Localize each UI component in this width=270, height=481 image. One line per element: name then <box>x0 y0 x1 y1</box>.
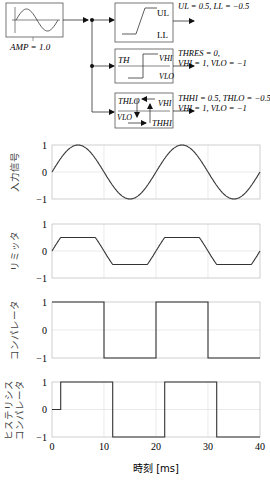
y-tick-label: −1 <box>36 194 47 205</box>
y-axis-label: リミッタ <box>9 231 20 271</box>
hysteresis-thlo-label: THLO <box>118 96 140 106</box>
comparator-vlo-label: VLO <box>159 72 174 81</box>
comparator-params-1: THRES = 0, <box>178 48 220 58</box>
y-tick-label: 0 <box>42 404 47 415</box>
hysteresis-thhi-label: THHI <box>152 118 173 128</box>
charts: 10−1入力信号10−1リミッタ10−1コンパレータ10−1010203040ヒ… <box>3 140 265 453</box>
y-tick-label: 1 <box>42 219 47 230</box>
x-tick-label: 30 <box>203 441 213 452</box>
y-tick-label: 0 <box>42 325 47 336</box>
y-tick-label: 0 <box>42 167 47 178</box>
limiter-ul-label: UL <box>157 8 169 18</box>
figure: AMP = 1.0 UL LL UL = 0.5, LL = −0.5 TH V… <box>0 0 270 481</box>
hysteresis-params-2: VHI = 1, VLO = −1 <box>178 103 247 113</box>
y-tick-label: −1 <box>36 432 47 443</box>
comparator-th-label: TH <box>118 55 130 65</box>
y-tick-label: 1 <box>42 377 47 388</box>
y-tick-label: 1 <box>42 140 47 151</box>
hysteresis-params-1: THHI = 0.5, THLO = −0.5 <box>178 93 270 103</box>
y-tick-label: 0 <box>42 246 47 257</box>
x-tick-label: 10 <box>99 441 109 452</box>
junction-dot-1 <box>90 18 94 22</box>
x-axis-label: 時刻 [ms] <box>133 462 179 474</box>
source-param-label: AMP = 1.0 <box>9 42 51 52</box>
comparator-params-2: VHI = 1, VLO = −1 <box>178 58 247 68</box>
y-tick-label: −1 <box>36 273 47 284</box>
x-tick-label: 20 <box>151 441 161 452</box>
limiter-ll-label: LL <box>157 30 168 40</box>
hysteresis-vhi-label: VHI <box>158 99 172 108</box>
y-tick-label: 1 <box>42 297 47 308</box>
y-axis-label: 入力信号 <box>9 152 20 192</box>
comparator-vhi-label: VHI <box>159 54 173 63</box>
block-diagram: AMP = 1.0 UL LL UL = 0.5, LL = −0.5 TH V… <box>6 1 270 128</box>
y-axis-label: コンパレータ <box>14 380 25 440</box>
x-tick-label: 0 <box>50 441 55 452</box>
x-tick-label: 40 <box>255 441 265 452</box>
y-axis-label: ヒステリシス <box>3 380 14 440</box>
y-axis-label: コンパレータ <box>9 300 20 360</box>
hysteresis-vlo-label: VLO <box>117 113 132 122</box>
junction-dot-2 <box>90 64 94 68</box>
y-tick-label: −1 <box>36 353 47 364</box>
limiter-params: UL = 0.5, LL = −0.5 <box>178 1 249 11</box>
